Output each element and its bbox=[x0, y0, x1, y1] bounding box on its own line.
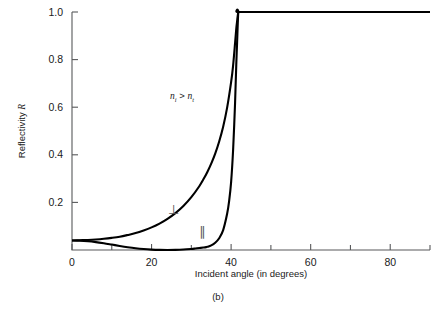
index-condition-annotation: ni > nt bbox=[170, 90, 194, 103]
data-curves bbox=[72, 10, 430, 250]
y-axis-tick-labels: 0.20.40.60.81.0 bbox=[48, 6, 63, 208]
figure-container: 020406080 0.20.40.60.81.0 ni > nt ⊥ ∥ In… bbox=[0, 0, 437, 311]
y-tick-label: 0.8 bbox=[48, 53, 63, 65]
x-tick-label: 20 bbox=[146, 256, 158, 268]
axes: 020406080 0.20.40.60.81.0 bbox=[48, 6, 430, 269]
x-axis-tick-labels: 020406080 bbox=[69, 256, 396, 268]
y-tick-label: 0.4 bbox=[48, 148, 63, 160]
y-axis-title: Reflectivity R bbox=[16, 104, 27, 159]
curve-perpendicular bbox=[72, 11, 430, 240]
x-axis-title: Incident angle (in degrees) bbox=[195, 268, 308, 279]
x-tick-label: 60 bbox=[305, 256, 317, 268]
y-tick-label: 0.6 bbox=[48, 101, 63, 113]
curve-parallel bbox=[72, 10, 430, 250]
x-tick-label: 0 bbox=[69, 256, 75, 268]
y-tick-label: 0.2 bbox=[48, 196, 63, 208]
y-tick-label: 1.0 bbox=[48, 6, 63, 18]
y-axis-ticks bbox=[72, 12, 78, 202]
x-tick-label: 40 bbox=[225, 256, 237, 268]
reflectivity-chart: 020406080 0.20.40.60.81.0 ni > nt ⊥ ∥ In… bbox=[0, 0, 437, 311]
parallel-polarization-label: ∥ bbox=[199, 224, 206, 239]
perpendicular-polarization-label: ⊥ bbox=[168, 202, 179, 217]
x-tick-label: 80 bbox=[384, 256, 396, 268]
figure-caption: (b) bbox=[212, 291, 224, 302]
axis-lines bbox=[72, 12, 430, 250]
